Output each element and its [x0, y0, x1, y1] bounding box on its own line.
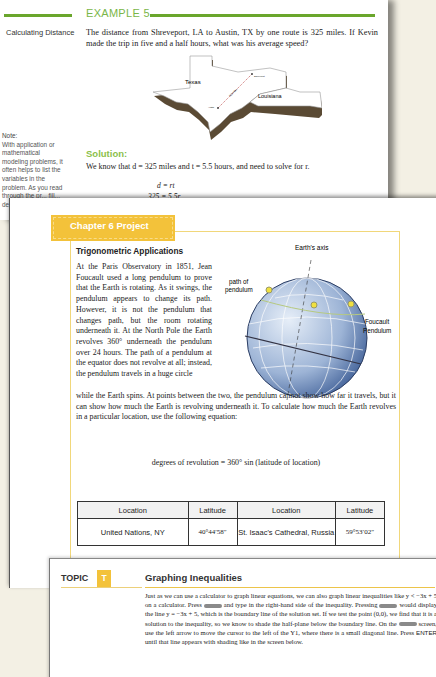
location-cell: United Nations, NY	[78, 519, 189, 546]
header-location: Location	[237, 502, 335, 519]
topic-text: and type in the right-hand side of the i…	[222, 601, 380, 608]
foucault-label-line2: Pendulum	[363, 327, 391, 334]
header-latitude: Latitude	[188, 502, 237, 519]
example-rule-left	[4, 14, 72, 17]
topic-title-rule	[145, 587, 435, 588]
shreveport-label: Shreveport	[254, 75, 265, 77]
problem-text: The distance from Shreveport, LA to Aust…	[86, 27, 378, 49]
table-header-row: Location Latitude Location Latitude	[78, 502, 385, 519]
equation-1: d = rt	[157, 181, 175, 190]
chapter-project-page: Chapter 6 Project Trigonometric Applicat…	[9, 198, 436, 588]
texas-label: Texas	[185, 79, 201, 85]
header-location: Location	[78, 502, 189, 519]
header-latitude: Latitude	[335, 502, 384, 519]
pendulum-bob	[311, 302, 317, 308]
texas-louisiana-map: Texas Louisiana Austin Shreveport 325 mi…	[150, 50, 322, 142]
example-page: EXAMPLE 5 Calculating Distance The dista…	[0, 0, 388, 220]
austin-label: Austin	[208, 106, 215, 108]
pendulum-bob	[266, 287, 272, 293]
revolution-formula: degrees of revolution = 360° sin (latitu…	[76, 458, 396, 467]
topic-page: TOPIC T Graphing Inequalities Just as we…	[49, 558, 436, 677]
note-heading: Note:	[2, 132, 66, 141]
austin-dot	[217, 107, 219, 109]
globe-sphere	[247, 278, 367, 398]
intro-paragraph: At the Paris Observatory in 1851, Jean F…	[76, 262, 212, 380]
topic-rule	[61, 587, 142, 588]
topic-label: TOPIC	[61, 573, 88, 583]
calculator-y-key-icon	[204, 604, 222, 608]
pendulum-bob	[348, 301, 354, 307]
solution-title: Solution:	[86, 148, 127, 159]
foucault-label-line1: Foucault	[365, 318, 389, 325]
calculator-graph-key-icon	[379, 604, 397, 608]
location-cell: St. Isaac's Cathedral, Russia	[237, 519, 335, 546]
continued-paragraph: while the Earth spins. At points between…	[76, 391, 396, 423]
latitude-cell: 40°44′58″	[188, 519, 237, 546]
latitude-table: Location Latitude Location Latitude Unit…	[77, 501, 385, 546]
louisiana-label: Louisiana	[258, 93, 282, 99]
calculator-y-key-icon	[399, 622, 417, 626]
example-rule-right	[150, 14, 375, 17]
example-title: EXAMPLE 5	[86, 7, 150, 19]
chapter-title: Chapter 6 Project	[70, 220, 149, 231]
earth-axis-label: Earth's axis	[295, 244, 329, 251]
topic-title: Graphing Inequalities	[145, 572, 242, 583]
solution-text: We know that d = 325 miles and t = 5.5 h…	[86, 162, 309, 171]
shreveport-dot	[251, 73, 253, 75]
enter-key-text: ENTER	[416, 629, 436, 636]
topic-badge: T	[97, 570, 111, 587]
table-row: United Nations, NY 40°44′58″ St. Isaac's…	[78, 519, 385, 546]
latitude-cell: 59°53′02″	[335, 519, 384, 546]
path-label-line1: path of	[229, 278, 249, 286]
foucault-globe-diagram: Earth's axis path of pendulum Foucault P…	[215, 238, 405, 400]
topic-text: until that line appears with shading lik…	[145, 638, 303, 645]
path-label-line2: pendulum	[225, 286, 253, 294]
section-subtitle: Trigonometric Applications	[76, 246, 183, 256]
topic-paragraph: Just as we can use a calculator to graph…	[145, 591, 436, 646]
side-label: Calculating Distance	[6, 28, 74, 37]
